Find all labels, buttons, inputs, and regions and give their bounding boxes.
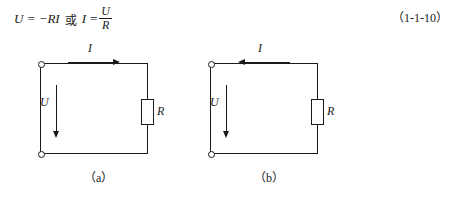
resistor-symbol — [141, 99, 154, 125]
figure-caption-a: （a） — [84, 168, 113, 186]
current-arrow-head — [238, 59, 245, 65]
circuit-diagram-b: R I U — [196, 55, 356, 167]
current-arrow — [238, 55, 290, 69]
voltage-arrow-head — [53, 131, 59, 138]
current-arrow — [68, 55, 120, 69]
circuit-diagram-a: R I U — [26, 55, 186, 167]
voltage-arrow-shaft — [226, 85, 227, 133]
voltage-label: U — [210, 95, 219, 110]
current-arrow-shaft — [68, 62, 113, 63]
resistor-symbol — [311, 99, 324, 125]
voltage-arrow-shaft — [56, 85, 57, 133]
equation-rhs-lead: I = — [82, 11, 98, 27]
terminal-bottom — [208, 151, 215, 158]
resistor-label: R — [157, 104, 164, 119]
resistor-label: R — [327, 104, 334, 119]
current-label: I — [258, 41, 262, 56]
equation-lhs: U = −RI — [14, 11, 60, 27]
current-label: I — [88, 41, 92, 56]
current-arrow-shaft — [245, 62, 290, 63]
right-wire-upper — [317, 63, 318, 99]
right-wire-lower — [147, 125, 148, 154]
bottom-wire — [40, 153, 148, 154]
voltage-arrow-head — [223, 131, 229, 138]
fraction-denominator: R — [100, 19, 111, 32]
figure-caption-b: （b） — [254, 168, 284, 186]
current-arrow-head — [113, 59, 120, 65]
equation-conjunction: 或 — [60, 11, 82, 28]
terminal-bottom — [38, 151, 45, 158]
right-wire-upper — [147, 63, 148, 99]
terminal-top — [208, 61, 215, 68]
fraction-numerator: U — [99, 5, 112, 18]
right-wire-lower — [317, 125, 318, 154]
equation-number: （1-1-10） — [392, 8, 448, 26]
fraction-u-over-r: U R — [99, 5, 112, 31]
figure-page: U = −RI 或 I = U R （1-1-10） R I U （a） — [0, 0, 462, 197]
terminal-top — [38, 61, 45, 68]
bottom-wire — [210, 153, 318, 154]
equation-line: U = −RI 或 I = U R — [14, 6, 113, 32]
voltage-label: U — [40, 95, 49, 110]
